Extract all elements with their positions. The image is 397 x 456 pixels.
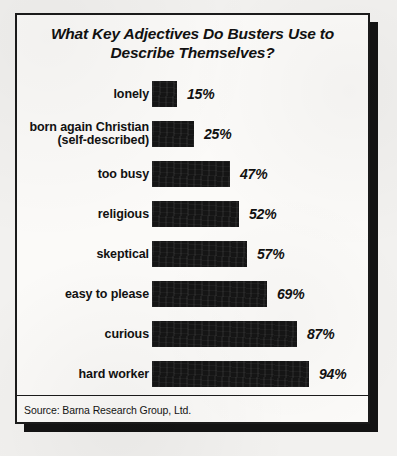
bar-row: skeptical 57% <box>17 234 368 274</box>
bar-fill <box>152 281 267 307</box>
bar-category-label: religious <box>17 194 149 234</box>
bar-value-label: 52% <box>249 206 276 222</box>
bar-row: hard worker 94% <box>17 354 368 394</box>
bar-row: lonely 15% <box>17 74 368 114</box>
bar-category-label: easy to please <box>17 274 149 314</box>
bar-track: 25% <box>152 121 362 147</box>
chart-title: What Key Adjectives Do Busters Use to De… <box>35 24 350 62</box>
bar-fill <box>152 81 177 107</box>
bar-fill <box>152 241 247 267</box>
bar-fill <box>152 121 194 147</box>
bar-category-label-line-1: curious <box>105 328 149 341</box>
bar-track: 15% <box>152 81 362 107</box>
bar-category-label: skeptical <box>17 234 149 274</box>
bar-value-label: 57% <box>257 246 284 262</box>
bar-category-label: too busy <box>17 154 149 194</box>
chart-title-line-1: What Key Adjectives Do Busters Use to <box>35 24 350 43</box>
bar-category-label: born again Christian (self-described) <box>17 114 149 154</box>
bar-category-label: curious <box>17 314 149 354</box>
bar-category-label: lonely <box>17 74 149 114</box>
chart-panel: What Key Adjectives Do Busters Use to De… <box>15 13 370 424</box>
bar-row: too busy 47% <box>17 154 368 194</box>
source-divider <box>17 395 368 396</box>
bar-category-label-line-1: born again Christian <box>29 120 149 134</box>
bar-category-label-line-1: skeptical <box>96 248 149 261</box>
bar-track: 57% <box>152 241 362 267</box>
bar-chart-plot: lonely 15% born again Christian (self-de… <box>17 74 368 394</box>
bar-category-label-line-1: too busy <box>98 168 149 181</box>
bar-value-label: 69% <box>277 286 304 302</box>
bar-track: 94% <box>152 361 362 387</box>
bar-track: 47% <box>152 161 362 187</box>
bar-value-label: 94% <box>319 366 346 382</box>
bar-fill <box>152 361 309 387</box>
bar-track: 69% <box>152 281 362 307</box>
bar-fill <box>152 321 297 347</box>
bar-fill <box>152 161 230 187</box>
bar-track: 52% <box>152 201 362 227</box>
bar-row: easy to please 69% <box>17 274 368 314</box>
bar-value-label: 87% <box>307 326 334 342</box>
bar-track: 87% <box>152 321 362 347</box>
source-note: Source: Barna Research Group, Ltd. <box>24 404 191 416</box>
bar-fill <box>152 201 239 227</box>
bar-row: religious 52% <box>17 194 368 234</box>
bar-value-label: 15% <box>187 86 214 102</box>
bar-row: curious 87% <box>17 314 368 354</box>
bar-category-label-line-1: hard worker <box>79 368 149 381</box>
bar-category-label-line-1: religious <box>98 208 149 221</box>
bar-value-label: 47% <box>240 166 267 182</box>
chart-title-line-2: Describe Themselves? <box>35 43 350 62</box>
bar-category-label-line-1: easy to please <box>65 288 149 301</box>
bar-category-label-line-2: (self-described) <box>29 134 149 148</box>
bar-category-label-line-1: lonely <box>113 88 149 101</box>
bar-category-label: hard worker <box>17 354 149 394</box>
bar-value-label: 25% <box>204 126 231 142</box>
bar-row: born again Christian (self-described) 25… <box>17 114 368 154</box>
